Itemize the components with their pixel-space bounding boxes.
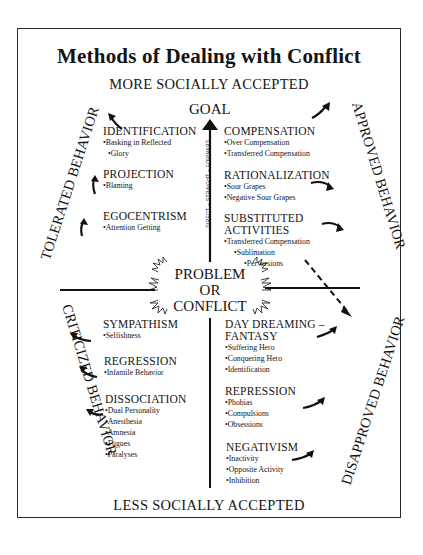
heading: REPRESSION [225, 385, 296, 397]
dashed-arrow-head-icon [341, 306, 352, 317]
heading: FANTASY [225, 330, 325, 342]
item: Inhibition [226, 475, 298, 486]
item: Negative Sour Grapes [224, 192, 330, 203]
center-line-2: OR [160, 282, 260, 298]
group-projection: PROJECTION Blaming [103, 168, 174, 191]
heading: ACTIVITIES [224, 224, 310, 236]
heading: SUBSTITUTED [224, 212, 310, 224]
center-problem: PROBLEM OR CONFLICT [160, 266, 260, 314]
heading: REGRESSION [104, 355, 177, 367]
heading: DISSOCIATION [105, 393, 187, 405]
item: Sublimation [224, 247, 310, 258]
item: Identification [225, 364, 325, 375]
item: Basking in Reflected [103, 137, 197, 148]
item: Perversions [224, 258, 310, 269]
group-regression: REGRESSION Infantile Behavior [104, 355, 177, 378]
group-day-dreaming: DAY DREAMING – FANTASY Suffering Hero Co… [225, 318, 325, 375]
heading: EGOCENTRISM [103, 210, 187, 222]
item: Dual Personality [105, 405, 187, 416]
group-negativism: NEGATIVISM Inactivity Opposite Activity … [226, 441, 298, 486]
group-sympathism: SYMPATHISM Selfishness [103, 318, 178, 341]
item: Transferred Compensation [224, 148, 315, 159]
heading: PROJECTION [103, 168, 174, 180]
item: Suffering Hero [225, 342, 325, 353]
item: Paralyses [105, 449, 187, 460]
item: Anesthesia [105, 416, 187, 427]
item: Inactivity [226, 453, 298, 464]
item: Selfishness [103, 330, 178, 341]
heading: NEGATIVISM [226, 441, 298, 453]
item: Compulsions [225, 408, 296, 419]
heading: RATIONALIZATION [224, 169, 330, 181]
item: Sour Grapes [224, 181, 330, 192]
group-identification: IDENTIFICATION Basking in Reflected Glor… [103, 125, 197, 159]
item: Attention Getting [103, 222, 187, 233]
heading: COMPENSATION [224, 125, 315, 137]
group-substituted-activities: SUBSTITUTED ACTIVITIES Transferred Compe… [224, 212, 310, 269]
item: Amnesia [105, 427, 187, 438]
item: Over Compensation [224, 137, 315, 148]
item: Blaming [103, 180, 174, 191]
axis-label-direct: DIRECT – STRAIGHT – FORWARD [205, 148, 211, 228]
item: Opposite Activity [226, 464, 298, 475]
center-line-3: CONFLICT [160, 298, 260, 314]
heading: DAY DREAMING – [225, 318, 325, 330]
item: Phobias [225, 397, 296, 408]
group-compensation: COMPENSATION Over Compensation Transferr… [224, 125, 315, 159]
item: Obsessions [225, 419, 296, 430]
heading: IDENTIFICATION [103, 125, 197, 137]
group-egocentrism: EGOCENTRISM Attention Getting [103, 210, 187, 233]
item: Conquering Hero [225, 353, 325, 364]
item: Transferred Compensation [224, 236, 310, 247]
up-arrow-icon [202, 119, 218, 130]
item: Infantile Behavior [104, 367, 177, 378]
group-rationalization: RATIONALIZATION Sour Grapes Negative Sou… [224, 169, 330, 203]
heading: SYMPATHISM [103, 318, 178, 330]
group-repression: REPRESSION Phobias Compulsions Obsession… [225, 385, 296, 430]
item: Glory [103, 148, 197, 159]
group-dissociation: DISSOCIATION Dual Personality Anesthesia… [105, 393, 187, 460]
item: Fugues [105, 438, 187, 449]
